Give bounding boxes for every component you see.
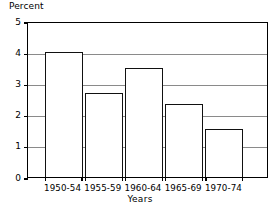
y-axis-tick — [24, 85, 28, 86]
x-axis-tick-label: 1970-74 — [193, 183, 253, 193]
bar — [165, 104, 203, 177]
bar — [125, 68, 163, 177]
y-axis-tick-label: 2 — [0, 111, 21, 120]
y-axis-tick-label: 1 — [0, 142, 21, 151]
y-axis-tick-label: 5 — [0, 18, 21, 27]
bar — [85, 93, 123, 177]
x-axis-tick — [85, 177, 86, 181]
x-axis-tick — [162, 177, 163, 181]
y-axis-title: Percent — [9, 1, 44, 12]
x-axis-tick — [165, 177, 166, 181]
y-axis-tick — [24, 178, 28, 179]
y-axis-tick — [24, 116, 28, 117]
x-axis-tick — [242, 177, 243, 181]
bar — [205, 129, 243, 177]
y-axis-tick — [24, 147, 28, 148]
x-axis-tick — [125, 177, 126, 181]
y-axis-tick — [24, 54, 28, 55]
y-axis-tick-label: 0 — [0, 174, 21, 183]
x-axis-tick — [122, 177, 123, 181]
bar — [45, 52, 83, 177]
x-axis-title: Years — [0, 194, 280, 205]
x-axis-tick — [202, 177, 203, 181]
x-axis-tick — [205, 177, 206, 181]
plot-area — [27, 22, 268, 178]
y-axis-tick — [24, 22, 28, 23]
bar-chart-figure: Percent Years 0123451950-541955-591960-6… — [0, 0, 280, 208]
x-axis-tick — [45, 177, 46, 181]
y-axis-tick-label: 3 — [0, 80, 21, 89]
x-axis-tick — [81, 177, 82, 181]
y-axis-tick-label: 4 — [0, 49, 21, 58]
